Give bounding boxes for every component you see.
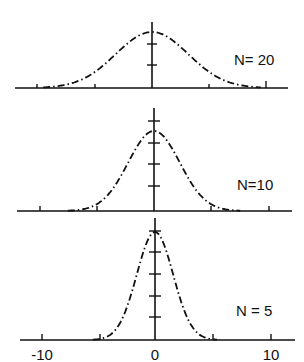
x-tick-label-10: 10 — [263, 346, 280, 362]
panel-label-n10: N=10 — [237, 176, 273, 193]
figure: N= 20 N=10 — [0, 0, 304, 362]
panel-n10: N=10 — [17, 108, 292, 211]
x-tick-label-0: 0 — [151, 346, 159, 362]
panel-label-n20: N= 20 — [234, 51, 274, 68]
panel-n5: N = 5 -10 0 10 — [20, 218, 295, 362]
x-ticks — [42, 334, 271, 340]
panel-n20: N= 20 — [15, 22, 288, 88]
x-tick-label-neg10: -10 — [31, 346, 53, 362]
panel-label-n5: N = 5 — [236, 302, 272, 319]
